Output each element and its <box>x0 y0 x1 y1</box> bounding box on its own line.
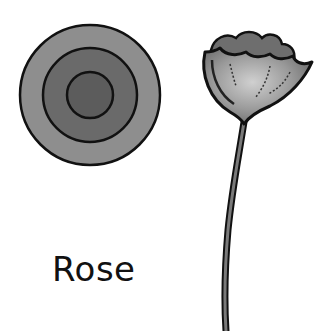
rose-side-view-icon <box>204 32 312 124</box>
rose-illustration <box>0 0 321 331</box>
rose-stem-icon <box>225 122 244 331</box>
rose-top-view-icon <box>20 25 160 165</box>
flower-name-label: Rose <box>52 252 136 286</box>
